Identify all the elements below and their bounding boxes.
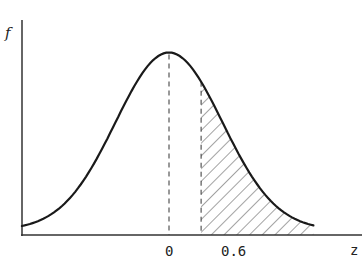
density-curve (22, 53, 314, 227)
x-axis-label: z (350, 242, 358, 258)
tick-label-cutoff: 0.6 (221, 243, 246, 259)
shaded-tail-area (201, 82, 313, 235)
tick-label-zero: 0 (165, 243, 173, 259)
y-axis-label: f (4, 24, 13, 42)
normal-distribution-chart: f z 0 0.6 (0, 0, 363, 270)
